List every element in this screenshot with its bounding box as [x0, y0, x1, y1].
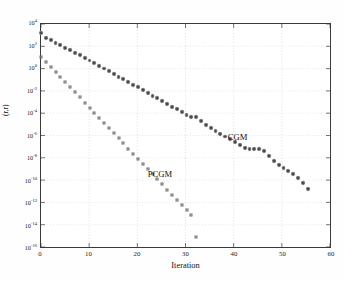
x-tick-label: 50 [279, 251, 286, 258]
x-axis-title: Iteration [40, 262, 331, 270]
y-tick-label: 104 [29, 20, 37, 26]
series-annotations: CGMPCGM [41, 24, 330, 247]
x-tick-label: 60 [328, 251, 335, 258]
x-tick-label: 40 [231, 251, 238, 258]
y-tick-label: 10-2 [27, 87, 37, 93]
y-tick-label: 10-10 [25, 177, 37, 183]
y-tick-label: 10-16 [25, 245, 37, 251]
y-tick-label: 10-14 [25, 222, 37, 228]
x-tick-label: 0 [38, 251, 41, 258]
chart-figure: 10410210010-210-410-610-810-1010-1210-14… [0, 0, 344, 281]
x-tick-label: 10 [85, 251, 92, 258]
x-tick-label: 30 [182, 251, 189, 258]
y-tick-label: 100 [29, 65, 37, 71]
y-axis-tick-labels: 10410210010-210-410-610-810-1010-1210-14… [0, 23, 37, 248]
y-tick-label: 10-8 [27, 155, 37, 161]
plot-area: CGMPCGM [40, 23, 331, 248]
series-label-pcgm: PCGM [148, 170, 172, 179]
y-tick-label: 10-4 [27, 110, 37, 116]
x-tick-label: 20 [134, 251, 141, 258]
y-tick-label: 102 [29, 42, 37, 48]
y-tick-label: 10-6 [27, 132, 37, 138]
y-tick-label: 10-12 [25, 200, 37, 206]
y-axis-title: (r,r) [2, 105, 9, 116]
series-label-cgm: CGM [228, 133, 248, 142]
